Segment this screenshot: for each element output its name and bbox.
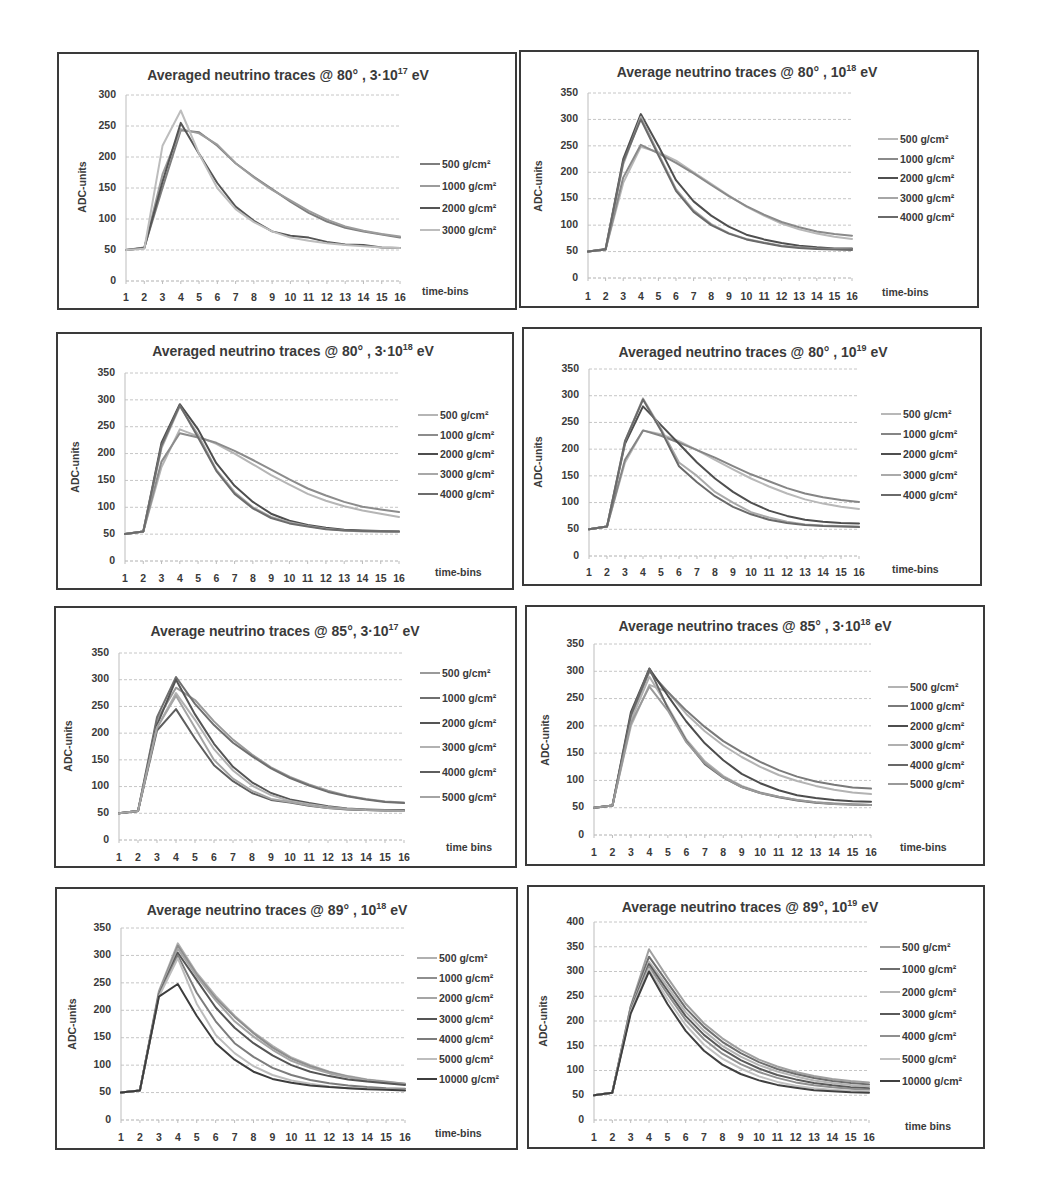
legend-item: 500 g/cm² bbox=[878, 132, 948, 146]
x-tick-label: 3 bbox=[628, 1131, 634, 1143]
x-tick-label: 12 bbox=[781, 566, 793, 578]
legend-label: 1000 g/cm² bbox=[440, 429, 494, 441]
x-tick-label: 15 bbox=[845, 1131, 857, 1143]
x-tick-label: 6 bbox=[214, 291, 220, 303]
y-tick-label: 400 bbox=[566, 915, 584, 927]
y-tick-label: 150 bbox=[560, 191, 578, 203]
legend-label: 2000 g/cm² bbox=[442, 717, 496, 729]
x-tick-label: 3 bbox=[622, 566, 628, 578]
x-tick-label: 14 bbox=[826, 1131, 838, 1143]
y-tick-label: 50 bbox=[566, 244, 578, 256]
y-tick-label: 100 bbox=[566, 1063, 584, 1075]
x-tick-label: 13 bbox=[338, 572, 350, 584]
x-tick-label: 6 bbox=[211, 851, 217, 863]
x-tick-label: 11 bbox=[302, 572, 313, 584]
x-tick-label: 3 bbox=[154, 851, 160, 863]
y-tick-label: 250 bbox=[561, 415, 579, 427]
x-tick-label: 13 bbox=[339, 291, 351, 303]
legend-swatch-icon bbox=[881, 433, 901, 435]
legend-label: 1000 g/cm² bbox=[903, 428, 957, 440]
x-tick-label: 1 bbox=[123, 291, 129, 303]
x-tick-label: 7 bbox=[694, 566, 700, 578]
legend-label: 1000 g/cm² bbox=[900, 153, 954, 165]
y-tick-label: 50 bbox=[99, 1085, 111, 1097]
series-line bbox=[588, 145, 852, 252]
x-tick-label: 15 bbox=[379, 851, 391, 863]
legend-swatch-icon bbox=[878, 177, 898, 179]
legend-swatch-icon bbox=[881, 453, 901, 455]
series-line bbox=[594, 964, 869, 1095]
chart-panel-80deg-3e17: Averaged neutrino traces @ 80° , 3·1017 … bbox=[57, 52, 517, 310]
x-tick-label: 15 bbox=[376, 291, 388, 303]
legend-label: 4000 g/cm² bbox=[439, 1033, 493, 1045]
x-tick-label: 16 bbox=[399, 1131, 411, 1143]
legend-item: 1000 g/cm² bbox=[418, 428, 494, 442]
x-tick-label: 11 bbox=[758, 290, 769, 302]
y-tick-label: 150 bbox=[93, 1030, 111, 1042]
x-tick-label: 4 bbox=[638, 290, 644, 302]
legend-label: 1000 g/cm² bbox=[442, 180, 496, 192]
legend-swatch-icon bbox=[418, 414, 438, 416]
x-tick-label: 15 bbox=[380, 1131, 392, 1143]
series-line bbox=[126, 130, 400, 250]
x-tick-label: 5 bbox=[658, 566, 664, 578]
legend-swatch-icon bbox=[888, 686, 908, 688]
legend-label: 500 g/cm² bbox=[900, 133, 948, 145]
legend-item: 10000 g/cm² bbox=[417, 1072, 499, 1086]
x-tick-label: 7 bbox=[691, 290, 697, 302]
legend-label: 3000 g/cm² bbox=[442, 224, 496, 236]
y-tick-label: 250 bbox=[93, 976, 111, 988]
legend-swatch-icon bbox=[420, 796, 440, 798]
legend-item: 3000 g/cm² bbox=[880, 1007, 956, 1021]
legend-label: 2000 g/cm² bbox=[902, 986, 956, 998]
legend-swatch-icon bbox=[420, 185, 440, 187]
x-tick-label: 10 bbox=[286, 1131, 298, 1143]
y-tick-label: 0 bbox=[110, 274, 116, 286]
legend-item: 4000 g/cm² bbox=[881, 488, 957, 502]
x-tick-label: 4 bbox=[178, 291, 184, 303]
x-tick-label: 6 bbox=[213, 572, 219, 584]
x-tick-label: 4 bbox=[646, 1131, 652, 1143]
x-tick-label: 1 bbox=[591, 1131, 597, 1143]
y-tick-label: 300 bbox=[566, 664, 584, 676]
x-tick-label: 14 bbox=[358, 291, 370, 303]
y-tick-label: 250 bbox=[98, 119, 116, 131]
x-tick-label: 2 bbox=[137, 1131, 143, 1143]
y-tick-label: 100 bbox=[97, 500, 115, 512]
y-tick-label: 300 bbox=[91, 672, 109, 684]
legend-label: 500 g/cm² bbox=[442, 158, 490, 170]
legend-label: 4000 g/cm² bbox=[440, 488, 494, 500]
legend-item: 1000 g/cm² bbox=[878, 152, 954, 166]
y-tick-label: 150 bbox=[561, 469, 579, 481]
x-tick-label: 15 bbox=[375, 572, 387, 584]
y-tick-label: 100 bbox=[98, 212, 116, 224]
legend-item: 5000 g/cm² bbox=[420, 790, 496, 804]
y-tick-label: 350 bbox=[560, 86, 578, 98]
legend-swatch-icon bbox=[880, 1058, 900, 1060]
x-tick-label: 11 bbox=[303, 851, 314, 863]
y-tick-label: 200 bbox=[560, 165, 578, 177]
legend-swatch-icon bbox=[417, 957, 437, 959]
x-tick-label: 16 bbox=[398, 851, 410, 863]
chart-panel-89deg-1e19: Average neutrino traces @ 89°, 1019 eV A… bbox=[527, 885, 985, 1149]
x-tick-label: 8 bbox=[251, 1131, 257, 1143]
x-tick-label: 13 bbox=[810, 846, 822, 858]
legend-label: 500 g/cm² bbox=[440, 409, 488, 421]
x-tick-label: 9 bbox=[738, 1131, 744, 1143]
x-tick-label: 5 bbox=[665, 846, 671, 858]
legend-label: 500 g/cm² bbox=[439, 952, 487, 964]
legend-swatch-icon bbox=[420, 229, 440, 231]
legend-swatch-icon bbox=[417, 1018, 437, 1020]
y-tick-label: 150 bbox=[98, 181, 116, 193]
legend-label: 1000 g/cm² bbox=[910, 700, 964, 712]
legend-swatch-icon bbox=[878, 138, 898, 140]
x-tick-label: 4 bbox=[640, 566, 646, 578]
plot-area: 0501001502002503003501234567891011121314… bbox=[54, 606, 517, 868]
x-tick-label: 2 bbox=[603, 290, 609, 302]
x-tick-label: 7 bbox=[230, 851, 236, 863]
x-tick-label: 5 bbox=[664, 1131, 670, 1143]
legend-item: 500 g/cm² bbox=[420, 157, 490, 171]
x-tick-label: 5 bbox=[192, 851, 198, 863]
x-tick-label: 5 bbox=[195, 572, 201, 584]
legend-swatch-icon bbox=[420, 207, 440, 209]
